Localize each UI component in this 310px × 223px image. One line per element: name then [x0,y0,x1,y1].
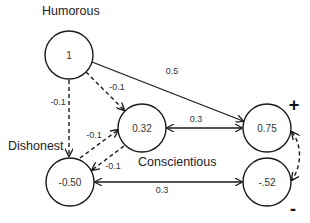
node-value-negative: -.52 [258,177,276,188]
node-humorous: 1 [45,31,93,79]
edge-label-conscientious-to-dishonest: -0.1 [105,161,121,171]
node-value-conscientious: 0.32 [132,123,152,134]
node-positive: 0.75 [243,104,291,152]
node-conscientious: 0.32 [118,104,166,152]
edge-label-conscientious-positive: 0.3 [190,114,203,124]
label-conscientious: Conscientious [138,155,217,169]
edge-positive-negative-curve [292,132,300,180]
path-diagram: Humorous Dishonest Conscientious + - 0.5… [0,0,310,223]
node-value-positive: 0.75 [257,123,277,134]
edge-label-humorous-to-dishonest: -0.1 [50,97,66,107]
label-humorous: Humorous [42,4,100,18]
edge-label-dishonest-negative: 0.3 [156,185,169,195]
node-negative: -.52 [243,158,291,206]
edge-label-humorous-to-conscientious: -0.1 [109,82,125,92]
node-value-dishonest: -0.50 [59,177,82,188]
node-dishonest: -0.50 [46,158,94,206]
label-dishonest: Dishonest [8,139,64,153]
plus-sign: + [289,95,300,115]
edge-label-humorous-to-positive: 0.5 [166,66,179,76]
minus-sign: - [290,199,296,219]
node-value-humorous: 1 [66,50,72,61]
edge-label-dishonest-to-conscientious: -0.1 [86,130,102,140]
